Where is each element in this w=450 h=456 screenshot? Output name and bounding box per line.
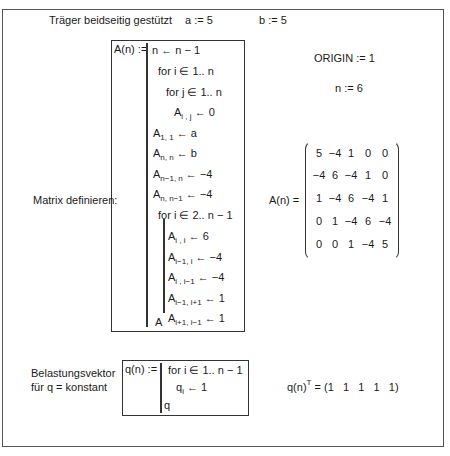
program-lhs: q(n) :=: [125, 363, 157, 375]
matrix-row: 0 0 1 −4 5: [305, 238, 395, 258]
program-line: Ai+1, i−1 ← 1: [168, 312, 225, 324]
matrix-row: 1 −4 6 −4 1: [305, 192, 395, 212]
program-return: A: [155, 316, 162, 328]
load-vector-sublabel: für q = konstant: [31, 381, 107, 393]
program-line: q: [164, 399, 170, 411]
n-definition[interactable]: n := 6: [335, 82, 363, 94]
load-vector-result[interactable]: q(n)T = (1 1 1 1 1): [287, 381, 399, 393]
origin-definition[interactable]: ORIGIN := 1: [314, 52, 375, 64]
program-line: for j ∈ 1.. n: [166, 86, 222, 99]
load-vector-label: Belastungsvektor: [31, 367, 115, 379]
program-line: Ai−1, i ← −4: [168, 251, 222, 263]
matrix-row: 0 1 −4 6 −4: [305, 215, 395, 235]
load-vector-program-block[interactable]: q(n) := for i ∈ 1.. n − 1 qi ← 1 q: [122, 360, 249, 416]
program-line: Ai−1, i+1 ← 1: [168, 292, 225, 304]
worksheet-title: Träger beidseitig gestützt: [49, 14, 172, 26]
program-bar: [146, 43, 148, 327]
definition-a[interactable]: a := 5: [185, 14, 213, 26]
program-line: Ai , j ← 0: [174, 106, 215, 118]
program-line: for i ∈ 2.. n − 1: [158, 209, 233, 222]
matrix-result[interactable]: 5 −4 1 0 0 −4 6 −4 1 0 1 −4 6 −4 1 0 1 −…: [305, 141, 395, 260]
program-line: qi ← 1: [176, 381, 207, 393]
program-line: Ai , i ← 6: [168, 230, 209, 242]
program-bar: [160, 363, 162, 413]
matrix-row: 5 −4 1 0 0: [305, 147, 395, 167]
program-line: An, n−1 ← −4: [153, 188, 212, 200]
program-line: A1, 1 ← a: [153, 127, 197, 139]
matrix-row: −4 6 −4 1 0: [305, 169, 395, 189]
definition-b[interactable]: b := 5: [259, 14, 287, 26]
program-line: An−1, n ← −4: [153, 168, 212, 180]
matrix-label: Matrix definieren:: [33, 194, 117, 206]
program-lhs: A(n) :=: [114, 43, 147, 55]
loop-bar: [163, 219, 165, 313]
program-line: for i ∈ 1.. n: [158, 65, 214, 78]
matrix-program-block[interactable]: A(n) := n ← n − 1 for i ∈ 1.. n for j ∈ …: [111, 40, 245, 332]
program-line: Ai , i−1 ← −4: [168, 271, 224, 283]
program-line: for i ∈ 1.. n − 1: [168, 364, 243, 377]
program-line: n ← n − 1: [152, 44, 200, 56]
program-line: An, n ← b: [153, 147, 197, 159]
matrix-result-lhs: A(n) =: [269, 194, 299, 206]
